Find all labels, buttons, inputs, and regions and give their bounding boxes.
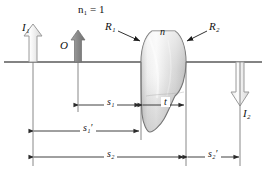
- dim-label-s1: s₁: [104, 97, 117, 107]
- thick-lens: [141, 31, 186, 132]
- medium-index-label: n₁ = 1: [78, 4, 105, 15]
- diagram-svg: [0, 0, 266, 175]
- surface1-label: R₁: [105, 21, 116, 32]
- dim-label-s2: s₂: [104, 149, 117, 159]
- dim-label-s1-prime: s₁′: [80, 123, 96, 133]
- surface2-leader: [187, 31, 207, 41]
- surface2-label: R₂: [209, 21, 220, 32]
- image2-label: I₂: [243, 108, 251, 119]
- object-label: O: [60, 40, 68, 51]
- dim-label-t: t: [161, 97, 170, 107]
- figure-canvas: n₁ = 1 I₁ O I₂ R₁ R₂ n s₁ t s₁′ s₂ s₂′: [0, 0, 266, 175]
- object-arrow: [71, 30, 85, 62]
- surface1-leader: [118, 31, 140, 41]
- image1-label: I₁: [22, 22, 30, 33]
- lens-index-label: n: [160, 27, 165, 37]
- dim-label-s2-prime: s₂′: [205, 149, 221, 159]
